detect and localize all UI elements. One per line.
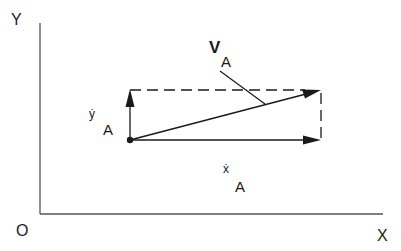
velocity-leader-line	[220, 71, 265, 104]
velocity-arrowhead-icon	[302, 90, 321, 99]
y-component-subscript: A	[103, 122, 113, 137]
velocity-symbol: V	[209, 39, 220, 56]
y-component-arrowhead-icon	[126, 89, 135, 107]
x-component-subscript: A	[235, 179, 245, 194]
x-component-arrowhead-icon	[303, 136, 321, 145]
y-axis-label: Y	[11, 12, 22, 28]
velocity-components-diagram: Y O X V A ẏ A ẋ A	[0, 0, 401, 251]
point-a-marker-icon	[127, 137, 133, 143]
x-component-symbol: ẋ	[223, 163, 229, 175]
origin-label: O	[16, 223, 28, 239]
x-axis-label: X	[377, 228, 388, 244]
velocity-vector	[130, 94, 306, 140]
diagram-canvas	[0, 0, 401, 251]
y-component-symbol: ẏ	[89, 108, 95, 120]
velocity-subscript: A	[221, 54, 231, 69]
